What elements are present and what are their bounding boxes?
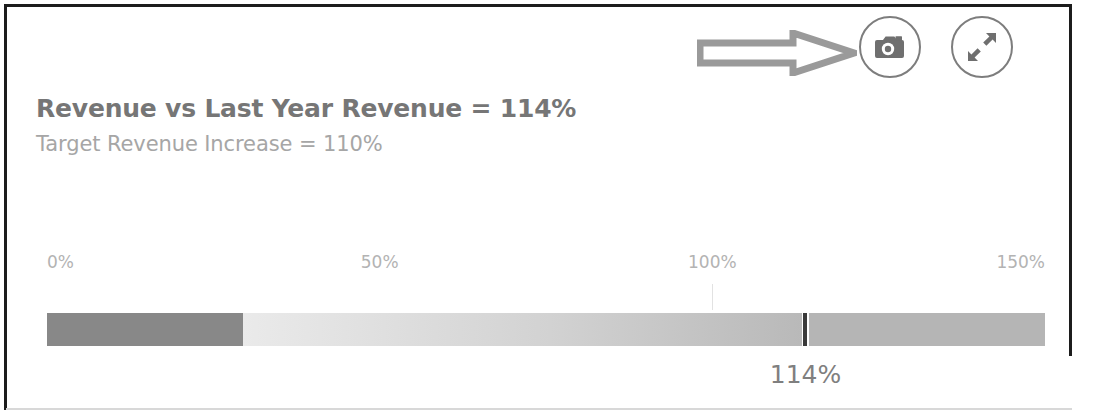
- bullet-bar[interactable]: [47, 313, 1045, 346]
- object-border-right: [1069, 4, 1072, 356]
- bullet-range-low: [47, 313, 243, 346]
- object-border-top: [4, 4, 1072, 7]
- bullet-range-high: [809, 313, 1045, 346]
- expand-arrows-icon: [967, 32, 997, 62]
- axis-tick-label: 100%: [688, 252, 737, 272]
- measure-value-label: 114%: [770, 360, 841, 389]
- bullet-range-medium: [243, 313, 802, 346]
- axis-gridline: [712, 284, 713, 310]
- object-border-left: [4, 4, 7, 410]
- camera-icon: [875, 34, 905, 60]
- fullscreen-button[interactable]: [951, 16, 1013, 78]
- snapshot-button[interactable]: [859, 16, 921, 78]
- axis-tick-label: 50%: [361, 252, 399, 272]
- chart-subtitle: Target Revenue Increase = 110%: [36, 132, 383, 156]
- bullet-value-marker: [803, 313, 807, 346]
- bullet-chart-object: Revenue vs Last Year Revenue = 114% Targ…: [0, 0, 1102, 420]
- x-axis: 0% 50% 100% 150%: [47, 252, 1045, 276]
- object-border-bottom: [6, 408, 1072, 410]
- axis-tick-label: 0%: [47, 252, 74, 272]
- chart-title: Revenue vs Last Year Revenue = 114%: [36, 94, 576, 123]
- right-arrow-annotation-icon: [697, 30, 857, 76]
- axis-tick-label: 150%: [996, 252, 1045, 272]
